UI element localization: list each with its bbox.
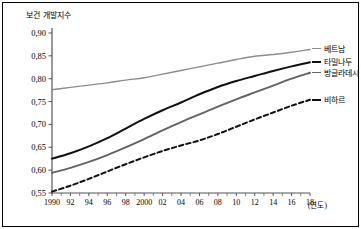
series-line-1 xyxy=(52,49,310,89)
x-tick-label: 96 xyxy=(99,198,115,207)
y-tick-label: 0,70 xyxy=(18,119,46,129)
legend-label-4: 비하르 xyxy=(324,94,345,105)
plot-area xyxy=(52,33,310,193)
y-tick-label: 0,65 xyxy=(18,142,46,152)
legend-label-2: 타밀나두 xyxy=(324,56,352,67)
x-tick-label: 94 xyxy=(81,198,97,207)
x-tick-label: 16 xyxy=(284,198,300,207)
x-tick-label: 14 xyxy=(265,198,281,207)
x-tick-label: 04 xyxy=(173,198,189,207)
y-tick-label: 0,90 xyxy=(18,28,46,38)
axis-lines xyxy=(49,28,311,196)
series-line-2 xyxy=(52,62,310,158)
legend-swatch-3 xyxy=(312,72,321,73)
x-tick-label: 08 xyxy=(210,198,226,207)
y-tick-label: 0,75 xyxy=(18,97,46,107)
legend-swatch-2 xyxy=(312,61,321,63)
x-tick-label: 2000 xyxy=(132,198,156,207)
x-tick-label: 92 xyxy=(62,198,78,207)
chart-figure: 보건 개발지수 0,900,850,800,750,700,650,600,55… xyxy=(0,0,361,229)
x-tick-label: 1990 xyxy=(40,198,64,207)
legend-label-1: 베트남 xyxy=(324,43,345,54)
y-tick-label: 0,55 xyxy=(18,188,46,198)
legend-swatch-1 xyxy=(312,48,321,49)
y-tick-label: 0,80 xyxy=(18,74,46,84)
x-tick-label: 06 xyxy=(191,198,207,207)
y-tick-label: 0,85 xyxy=(18,51,46,61)
y-tick-label: 0,60 xyxy=(18,165,46,175)
series-line-3 xyxy=(52,73,310,173)
plot-svg xyxy=(52,33,310,193)
x-tick-label: 10 xyxy=(228,198,244,207)
x-tick-label: 02 xyxy=(155,198,171,207)
x-tick-label: 12 xyxy=(247,198,263,207)
legend-swatch-4 xyxy=(312,99,321,101)
x-axis-unit-label: (연도) xyxy=(308,199,327,210)
legend-label-3: 방글라데시 xyxy=(324,67,359,78)
chart-title: 보건 개발지수 xyxy=(26,9,71,20)
